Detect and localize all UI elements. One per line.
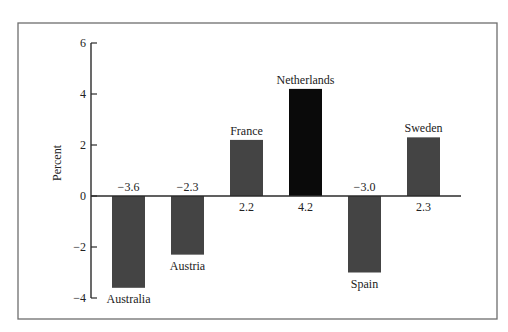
- category-label: Netherlands: [277, 73, 335, 87]
- value-label: −2.3: [177, 180, 199, 194]
- y-tick-label: −2: [73, 240, 86, 254]
- value-label: 2.3: [416, 200, 431, 214]
- value-label: 2.2: [239, 200, 254, 214]
- bar-netherlands: [289, 89, 322, 196]
- bar-chart: 6420−2−4 Percent Australia−3.6Austria−2.…: [0, 0, 508, 332]
- bar-australia: [112, 196, 145, 288]
- bar-labels-group: Australia−3.6Austria−2.3France2.2Netherl…: [107, 73, 443, 306]
- category-label: Australia: [107, 292, 152, 306]
- bar-spain: [348, 196, 381, 273]
- category-label: Spain: [351, 277, 378, 291]
- y-axis-title: Percent: [50, 144, 64, 181]
- y-axis: 6420−2−4: [73, 36, 97, 305]
- bars-group: [112, 89, 440, 288]
- value-label: −3.0: [354, 180, 376, 194]
- y-tick-label: 2: [80, 138, 86, 152]
- bar-sweden: [407, 137, 440, 196]
- value-label: −3.6: [118, 180, 140, 194]
- bar-austria: [171, 196, 204, 255]
- bar-france: [230, 140, 263, 196]
- category-label: France: [230, 124, 263, 138]
- category-label: Austria: [170, 259, 206, 273]
- y-tick-label: 6: [80, 36, 86, 50]
- value-label: 4.2: [298, 200, 313, 214]
- category-label: Sweden: [405, 121, 443, 135]
- y-tick-label: 4: [80, 87, 86, 101]
- y-tick-label: −4: [73, 291, 86, 305]
- y-tick-label: 0: [80, 189, 86, 203]
